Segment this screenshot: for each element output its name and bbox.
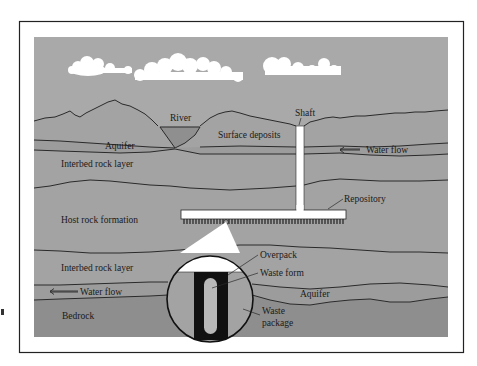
label-interbed-lower: Interbed rock layer [61,263,134,273]
shaft-join [296,205,303,211]
label-overpack: Overpack [260,250,297,260]
label-water-flow-lower: Water flow [80,287,122,297]
label-host-rock: Host rock formation [61,215,138,225]
label-waste-form: Waste form [260,268,304,278]
label-water-flow-upper: Water flow [366,145,408,155]
waste-form [204,278,217,334]
label-shaft: Shaft [295,108,315,118]
repository-diagram: River Shaft Surface deposits Aquifer Wat… [0,0,477,366]
repository-drift [181,210,346,219]
label-waste-package-1: Waste [262,306,285,316]
label-bedrock: Bedrock [62,311,94,321]
label-river: River [170,113,192,123]
label-interbed-upper: Interbed rock layer [61,159,134,169]
magnified-detail [167,256,253,342]
label-aquifer-upper: Aquifer [105,141,135,151]
label-repository: Repository [344,194,386,204]
label-aquifer-lower: Aquifer [300,289,330,299]
label-surface-deposits: Surface deposits [218,130,281,140]
label-waste-package-2: package [262,318,293,328]
shaft [296,126,304,211]
